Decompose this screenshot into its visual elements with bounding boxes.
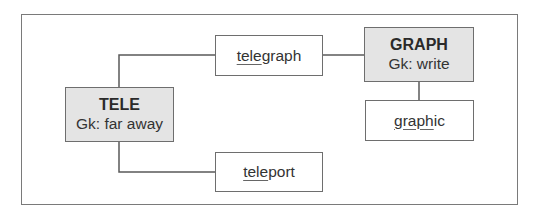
word-label: graphic	[394, 112, 445, 130]
root-gloss: Gk: write	[388, 55, 449, 73]
word-root-part: tele	[237, 47, 262, 64]
word-node-telegraph: telegraph	[215, 35, 323, 76]
word-rest-part: graph	[262, 47, 302, 64]
edge-tele-teleport	[119, 141, 215, 172]
root-node-tele: TELE Gk: far away	[65, 87, 174, 142]
word-rest-part: port	[268, 163, 295, 180]
word-root-part: graph	[394, 112, 434, 129]
root-gloss: Gk: far away	[76, 115, 163, 133]
word-rest-part: ic	[434, 112, 445, 129]
root-title: TELE	[99, 96, 140, 114]
word-node-teleport: teleport	[215, 152, 323, 192]
root-node-graph: GRAPH Gk: write	[364, 27, 474, 82]
word-node-graphic: graphic	[365, 100, 474, 141]
root-title: GRAPH	[390, 36, 448, 54]
word-label: telegraph	[237, 47, 302, 65]
word-root-part: tele	[243, 163, 268, 180]
edge-tele-telegraph	[119, 55, 215, 87]
word-label: teleport	[243, 163, 295, 181]
